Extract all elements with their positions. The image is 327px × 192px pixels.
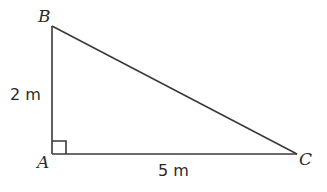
side-bc [52, 26, 297, 154]
triangle-shape [52, 26, 297, 154]
vertex-label-c: C [299, 149, 312, 169]
triangle-diagram: B A C 2 m 5 m [0, 0, 327, 192]
side-label-ab: 2 m [10, 85, 41, 104]
vertex-label-b: B [37, 6, 51, 26]
side-label-ac: 5 m [158, 161, 189, 180]
right-angle-marker-icon [52, 141, 66, 154]
vertex-label-a: A [35, 152, 49, 172]
